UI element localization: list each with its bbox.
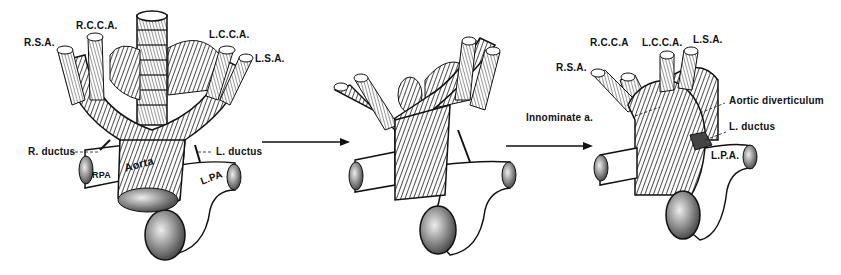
- label-rcca-panel-1: R.C.C.A.: [76, 20, 118, 31]
- panel-3-drawing: [591, 47, 757, 240]
- label-lpa-panel-3: L.P.A.: [711, 150, 739, 161]
- label-rsa-panel-1: R.S.A.: [24, 37, 55, 48]
- label-l-ductus-panel-3: L. ductus: [729, 121, 775, 132]
- label-innominate-panel-3: Innominate a.: [526, 112, 593, 123]
- arrow-2-icon: [506, 142, 593, 150]
- label-rsa-panel-3: R.S.A.: [556, 62, 587, 73]
- trachea: [137, 15, 167, 125]
- label-l-ductus-panel-1: L. ductus: [216, 146, 262, 157]
- label-lsa-panel-1: L.S.A.: [255, 53, 285, 64]
- label-lsa-panel-3: L.S.A.: [693, 34, 723, 45]
- label-lcca-panel-3: L.C.C.A.: [642, 37, 683, 48]
- label-aortic-diverticulum-panel-3: Aortic diverticulum: [729, 95, 824, 106]
- label-r-ductus-panel-1: R. ductus: [28, 146, 75, 157]
- arrow-1-icon: [262, 138, 350, 146]
- label-rpa-panel-1: RPA: [92, 170, 111, 180]
- panel-1-drawing: [57, 11, 253, 260]
- label-rcca-panel-3: R.C.C.A: [590, 37, 629, 48]
- panel-2-drawing: [334, 37, 516, 255]
- label-lcca-panel-1: L.C.C.A.: [209, 29, 250, 40]
